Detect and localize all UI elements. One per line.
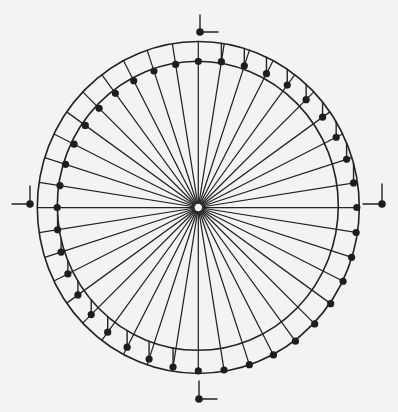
data-dot	[88, 311, 95, 318]
marker-dot	[26, 200, 34, 208]
data-dot	[348, 254, 355, 261]
data-dot	[96, 105, 103, 112]
data-dot	[124, 344, 131, 351]
data-dot	[70, 141, 77, 148]
data-dot	[241, 62, 248, 69]
ray-line	[198, 50, 249, 207]
ray-line	[198, 208, 330, 304]
data-dot	[150, 67, 157, 74]
marker-west	[12, 186, 34, 208]
ray-line	[198, 158, 352, 208]
data-dot	[220, 366, 227, 373]
hub	[194, 203, 202, 211]
ray-line	[198, 208, 352, 258]
center-hole-icon	[194, 203, 202, 211]
marker-south	[195, 381, 217, 403]
ray-line	[102, 208, 199, 341]
data-dot	[62, 161, 69, 168]
data-dot	[343, 156, 350, 163]
data-dot	[353, 229, 360, 236]
data-dot	[350, 179, 357, 186]
data-dot	[292, 338, 299, 345]
marker-east	[363, 184, 386, 208]
marker-dot	[196, 28, 204, 36]
data-dot	[195, 367, 202, 374]
ray-line	[83, 208, 199, 324]
data-dot	[145, 355, 152, 362]
data-dot	[56, 182, 63, 189]
data-dot	[246, 361, 253, 368]
data-dot	[172, 61, 179, 68]
ray-line	[198, 208, 295, 341]
data-dot	[82, 122, 89, 129]
data-dot	[333, 134, 340, 141]
ray-line	[45, 208, 199, 258]
data-dot	[270, 351, 277, 358]
data-dot	[58, 248, 65, 255]
dial-canvas	[0, 0, 398, 412]
data-dot	[54, 226, 61, 233]
data-dot	[195, 58, 202, 65]
ray-line	[198, 208, 314, 324]
data-dot	[112, 90, 119, 97]
data-dot	[339, 278, 346, 285]
data-dot	[263, 70, 270, 77]
ray-line	[147, 208, 198, 365]
data-dot	[218, 58, 225, 65]
marker-dot	[195, 395, 203, 403]
data-dot	[303, 96, 310, 103]
ray-line	[67, 208, 199, 304]
marker-north	[196, 15, 218, 36]
data-dot	[327, 300, 334, 307]
data-dot	[104, 329, 111, 336]
data-dot	[284, 81, 291, 88]
radial-diagram: Radial dial with offset dot circle	[0, 0, 398, 412]
data-dot	[54, 204, 61, 211]
marker-dot	[378, 200, 386, 208]
ray-line	[198, 92, 314, 208]
data-dot	[311, 320, 318, 327]
data-dot	[130, 77, 137, 84]
data-dot	[64, 270, 71, 277]
ray-line	[198, 112, 330, 208]
data-dot	[74, 291, 81, 298]
data-dot	[319, 114, 326, 121]
ray-line	[198, 208, 249, 365]
data-dot	[353, 204, 360, 211]
data-dot	[169, 363, 176, 370]
ray-line	[198, 75, 295, 208]
